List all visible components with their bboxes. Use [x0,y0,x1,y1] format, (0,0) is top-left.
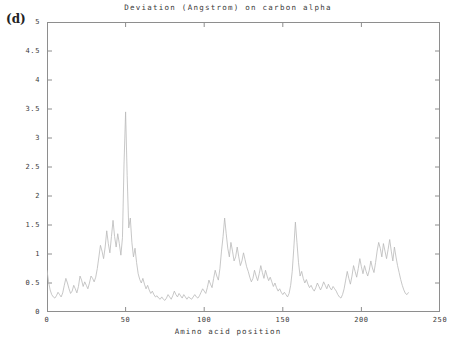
y-tick-label: 1 [0,250,40,258]
y-tick-label: 0.5 [0,279,40,287]
y-tick-label: 4 [0,76,40,84]
chart-title: Deviation (Angstrom) on carbon alpha [0,3,456,12]
x-tick-label: 250 [418,316,456,324]
y-tick-label: 3 [0,134,40,142]
x-axis-title: Amino acid position [0,327,456,336]
x-tick-label: 200 [339,316,383,324]
y-tick-label: 2 [0,192,40,200]
x-tick-label: 0 [25,316,69,324]
y-tick-label: 1.5 [0,221,40,229]
y-tick-label: 3.5 [0,105,40,113]
y-tick-label: 0 [0,308,40,316]
chart-plot-area [47,22,440,312]
x-tick-label: 100 [182,316,226,324]
x-tick-label: 50 [104,316,148,324]
y-tick-label: 4.5 [0,47,40,55]
y-tick-label: 5 [0,18,40,26]
x-tick-label: 150 [261,316,305,324]
y-tick-label: 2.5 [0,163,40,171]
data-line-c-alpha-deviation [47,112,409,301]
